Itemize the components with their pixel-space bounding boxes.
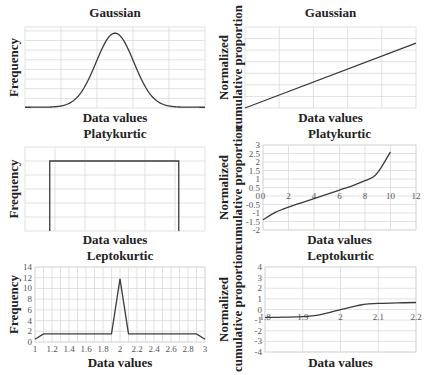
x-axis-label: Data values <box>88 355 153 370</box>
y-tick-label: 8 <box>28 294 33 304</box>
x-tick-label: 6 <box>337 191 342 201</box>
y-tick-label: -1.5 <box>246 217 261 227</box>
x-tick-label: 12 <box>412 191 421 201</box>
chart-panel-platykurtic-cumulative: -2-1.5-1-0.500.511.522.53024681012Platyk… <box>216 124 421 250</box>
x-tick-label: 1.6 <box>80 344 92 354</box>
y-tick-label: 3 <box>258 273 263 283</box>
chart-title: Leptokurtic <box>307 248 374 263</box>
y-axis-label: Normalized <box>216 34 231 100</box>
x-tick-label: 2.2 <box>410 312 421 322</box>
y-axis-label: cumulative proportion <box>230 246 245 372</box>
y-tick-label: -3 <box>255 336 263 346</box>
chart-title: Platykurtic <box>84 126 147 141</box>
y-tick-label: -2 <box>253 225 261 235</box>
chart-figure: GaussianData valuesFrequencyGaussianData… <box>0 0 428 375</box>
y-axis-label: cumulative proportion <box>230 124 245 250</box>
chart-panel-gaussian-frequency: GaussianData valuesFrequency <box>6 5 205 125</box>
plot-frame <box>25 27 205 108</box>
x-tick-label: 1.8 <box>97 344 109 354</box>
x-tick-label: 8 <box>363 191 368 201</box>
chart-title: Leptokurtic <box>87 248 154 263</box>
y-tick-label: -1 <box>253 208 261 218</box>
x-axis-label: Data values <box>298 110 363 125</box>
y-tick-label: 0 <box>28 337 33 347</box>
x-tick-label: 2.6 <box>165 344 177 354</box>
y-tick-label: 3 <box>256 140 261 150</box>
x-axis-label: Data values <box>83 110 148 125</box>
y-axis-label: Frequency <box>6 159 21 218</box>
y-tick-label: 1.5 <box>249 166 261 176</box>
x-tick-label: 2 <box>286 191 291 201</box>
y-tick-label: 2.5 <box>249 149 261 159</box>
chart-panel-leptokurtic-cumulative: -4-3-2-1012341.81.922.12.2LeptokurticDat… <box>216 246 422 372</box>
y-tick-label: 0.5 <box>249 183 261 193</box>
y-tick-label: 2 <box>28 326 33 336</box>
x-tick-label: 2.2 <box>131 344 142 354</box>
y-axis-label: Frequency <box>6 275 21 334</box>
y-axis-label: Normalized <box>216 276 231 342</box>
y-axis-label: Frequency <box>6 38 21 97</box>
x-tick-label: 2 <box>338 312 343 322</box>
y-axis-label: cumulative proportion <box>230 4 245 130</box>
y-tick-label: 6 <box>28 305 33 315</box>
y-tick-label: 2 <box>256 157 261 167</box>
chart-title: Platykurtic <box>308 126 371 141</box>
y-tick-label: 4 <box>28 316 33 326</box>
x-tick-label: 10 <box>386 191 396 201</box>
plot-frame <box>245 27 416 108</box>
x-tick-label: 1.4 <box>63 344 75 354</box>
x-tick-label: 2.4 <box>148 344 160 354</box>
y-tick-label: 4 <box>258 262 263 272</box>
y-tick-label: 10 <box>23 283 33 293</box>
series-line <box>50 161 179 231</box>
y-tick-label: -0.5 <box>246 200 261 210</box>
x-tick-label: 0 <box>261 191 266 201</box>
y-tick-label: 1 <box>256 174 261 184</box>
y-tick-label: 14 <box>23 262 33 272</box>
chart-panel-platykurtic-frequency: PlatykurticData valuesFrequency <box>6 126 205 247</box>
chart-panel-leptokurtic-frequency: 0246810121411.21.41.61.822.22.42.62.83Le… <box>6 248 208 370</box>
y-axis-label: Normalized <box>216 154 231 220</box>
series-line <box>245 43 416 108</box>
x-axis-label: Data values <box>83 232 148 247</box>
x-axis-label: Data values <box>308 355 373 370</box>
x-tick-label: 1 <box>33 344 38 354</box>
x-tick-label: 2.1 <box>373 312 384 322</box>
y-tick-label: 12 <box>23 273 32 283</box>
x-tick-label: 3 <box>203 344 208 354</box>
chart-panel-gaussian-cumulative: GaussianData valuesNormalizedcumulative … <box>216 4 416 130</box>
series-line <box>25 33 205 107</box>
y-tick-label: -4 <box>255 347 263 357</box>
chart-title: Gaussian <box>305 5 357 20</box>
y-tick-label: 1 <box>258 294 263 304</box>
chart-title: Gaussian <box>89 5 141 20</box>
x-tick-label: 1.2 <box>46 344 57 354</box>
y-tick-label: 0 <box>256 191 261 201</box>
y-tick-label: 2 <box>258 283 263 293</box>
x-tick-label: 2 <box>118 344 123 354</box>
y-tick-label: -2 <box>255 326 263 336</box>
x-axis-label: Data values <box>307 232 372 247</box>
x-tick-label: 2.8 <box>182 344 194 354</box>
